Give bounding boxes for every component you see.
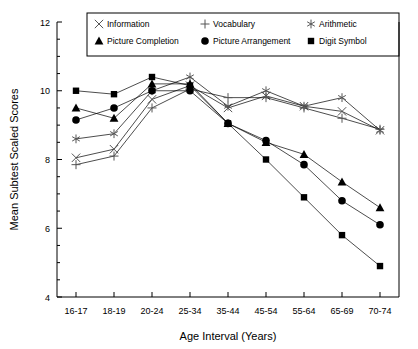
x-axis: 16-1718-1920-2425-3435-4445-5455-6465-69… [64,292,391,316]
marker-triangle [338,177,347,185]
marker-circle [338,197,346,205]
marker-circle [201,37,209,45]
marker-asterisk [72,134,80,143]
marker-plus [201,20,210,29]
legend-label: Picture Arrangement [213,36,291,46]
y-tick-label: 4 [45,293,50,303]
marker-triangle [300,150,309,158]
series-line [76,91,380,225]
x-tick-label: 70-74 [368,306,391,316]
marker-square [308,38,314,44]
marker-square [225,120,231,126]
marker-triangle [95,37,104,45]
marker-circle [148,87,156,95]
marker-circle [376,221,384,229]
legend-item-vocabulary[interactable]: Vocabulary [201,19,256,29]
marker-square [73,88,79,94]
marker-asterisk [307,20,315,29]
x-tick-label: 18-19 [102,306,125,316]
x-tick-label: 20-24 [140,306,163,316]
line-chart: 4681012Mean Subtest Scaled Scores16-1718… [0,0,418,349]
legend-label: Information [107,19,150,29]
x-axis-title: Age Interval (Years) [180,330,277,342]
x-tick-label: 16-17 [64,306,87,316]
marker-square [263,156,269,162]
legend-item-digit-symbol[interactable]: Digit Symbol [308,36,367,46]
marker-square [187,82,193,88]
marker-square [377,263,383,269]
chart-container: 4681012Mean Subtest Scaled Scores16-1718… [0,0,418,349]
legend-label: Digit Symbol [319,36,367,46]
marker-square [339,232,345,238]
marker-square [301,194,307,200]
legend-label: Vocabulary [213,19,256,29]
marker-circle [72,116,80,124]
y-axis: 4681012 [40,18,62,303]
y-axis-title: Mean Subtest Scaled Scores [8,88,20,230]
axis-frame [57,22,399,297]
marker-x-cross [95,20,103,28]
marker-triangle [72,104,81,112]
marker-plus [224,93,233,102]
legend-item-picture-completion[interactable]: Picture Completion [95,36,179,46]
marker-circle [110,104,118,112]
marker-square [149,74,155,80]
legend: InformationVocabularyArithmeticPicture C… [87,13,399,56]
marker-circle [300,161,308,169]
x-tick-label: 55-64 [292,306,315,316]
y-tick-label: 6 [45,224,50,234]
marker-circle [262,137,270,145]
y-tick-label: 10 [40,86,50,96]
marker-square [111,91,117,97]
legend-item-information[interactable]: Information [95,19,150,29]
legend-label: Picture Completion [107,36,179,46]
marker-asterisk [338,93,346,102]
marker-plus [148,103,157,112]
marker-triangle [148,79,157,87]
x-tick-label: 25-34 [178,306,201,316]
legend-label: Arithmetic [319,19,358,29]
series-arithmetic [72,73,384,144]
x-tick-label: 45-54 [254,306,277,316]
marker-x-cross [148,95,156,103]
y-tick-label: 8 [45,155,50,165]
legend-item-picture-arrangement[interactable]: Picture Arrangement [201,36,291,46]
x-tick-label: 35-44 [216,306,239,316]
marker-triangle [376,203,385,211]
legend-item-arithmetic[interactable]: Arithmetic [307,19,357,29]
x-tick-label: 65-69 [330,306,353,316]
y-tick-label: 12 [40,18,50,28]
